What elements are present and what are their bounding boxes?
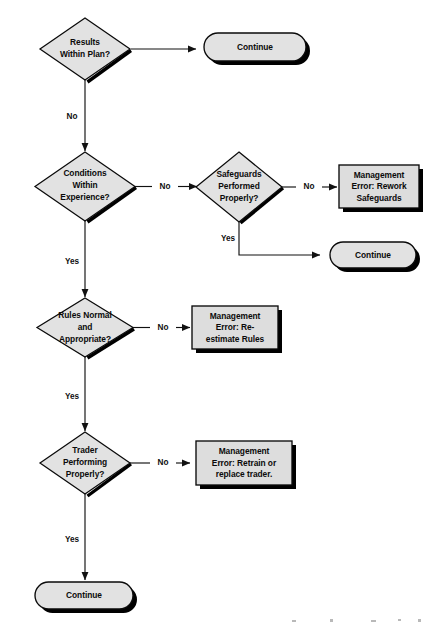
- edge-label-safeguards-no: No: [304, 182, 315, 191]
- edge-label-trader-yes: Yes: [65, 535, 80, 544]
- node-conditions-line-2: Experience?: [60, 192, 109, 202]
- node-error-reestimate-line-2: estimate Rules: [206, 334, 265, 344]
- flowchart-svg: Results Within Plan? Continue No Conditi…: [0, 0, 442, 628]
- edge-label-conditions-yes: Yes: [65, 257, 80, 266]
- node-error-rework-line-0: Management: [354, 170, 405, 180]
- node-management-error-retrain-trader[interactable]: Management Error: Retrain or replace tra…: [196, 441, 296, 489]
- connector-safeguards-yes-elbow: [239, 222, 320, 255]
- node-error-retrain-line-2: replace trader.: [216, 469, 273, 479]
- flowchart-canvas: Results Within Plan? Continue No Conditi…: [0, 0, 442, 628]
- edge-label-trader-no: No: [158, 458, 169, 467]
- node-rules-normal-appropriate[interactable]: Rules Normal and Appropriate?: [37, 298, 134, 358]
- node-error-retrain-line-1: Error: Retrain or: [212, 458, 277, 468]
- node-error-retrain-line-0: Management: [219, 446, 270, 456]
- node-safeguards-line-2: Properly?: [220, 193, 259, 203]
- scan-artifacts: [292, 619, 421, 622]
- node-error-reestimate-line-0: Management: [210, 311, 261, 321]
- edge-label-results-no: No: [67, 112, 78, 121]
- node-trader-line-1: Performing: [63, 457, 107, 467]
- node-continue-top-label: Continue: [237, 42, 273, 52]
- node-safeguards-line-1: Performed: [218, 181, 259, 191]
- node-trader-performing-properly[interactable]: Trader Performing Properly?: [40, 432, 131, 496]
- node-results-within-plan-line-1: Within Plan?: [60, 49, 110, 59]
- edge-label-rules-yes: Yes: [65, 392, 80, 401]
- node-rules-line-1: and: [78, 322, 93, 332]
- node-management-error-reestimate-rules[interactable]: Management Error: Re- estimate Rules: [192, 306, 282, 353]
- node-continue-bottom[interactable]: Continue: [35, 582, 137, 613]
- node-safeguards-line-0: Safeguards: [216, 169, 262, 179]
- node-trader-line-0: Trader: [72, 445, 98, 455]
- node-conditions-line-1: Within: [72, 180, 97, 190]
- node-continue-bottom-label: Continue: [66, 590, 102, 600]
- node-trader-line-2: Properly?: [66, 469, 105, 479]
- node-continue-middle[interactable]: Continue: [330, 242, 420, 272]
- node-continue-top[interactable]: Continue: [204, 33, 310, 65]
- node-conditions-line-0: Conditions: [63, 168, 107, 178]
- edge-label-safeguards-yes: Yes: [221, 234, 236, 243]
- node-conditions-within-experience[interactable]: Conditions Within Experience?: [35, 152, 136, 222]
- node-error-rework-line-1: Error: Rework: [351, 181, 407, 191]
- edge-label-conditions-no: No: [160, 182, 171, 191]
- node-safeguards-performed-properly[interactable]: Safeguards Performed Properly?: [196, 152, 283, 223]
- node-rules-line-0: Rules Normal: [58, 310, 111, 320]
- node-continue-middle-label: Continue: [355, 250, 391, 260]
- node-error-rework-line-2: Safeguards: [356, 193, 402, 203]
- edge-label-rules-no: No: [158, 323, 169, 332]
- node-error-reestimate-line-1: Error: Re-: [216, 322, 255, 332]
- node-management-error-rework-safeguards[interactable]: Management Error: Rework Safeguards: [339, 165, 423, 212]
- node-results-within-plan-line-0: Results: [70, 37, 100, 47]
- node-rules-line-2: Appropriate?: [59, 334, 111, 344]
- node-results-within-plan[interactable]: Results Within Plan?: [40, 18, 131, 82]
